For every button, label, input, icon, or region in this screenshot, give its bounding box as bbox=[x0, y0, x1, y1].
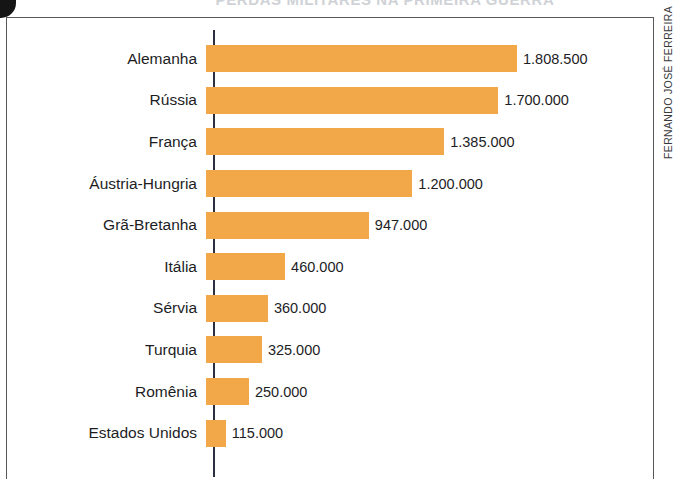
bar-category-label: Alemanha bbox=[6, 50, 206, 68]
bar-category-label: Itália bbox=[6, 258, 206, 276]
bar-value-label: 360.000 bbox=[268, 300, 326, 316]
credit-line: FERNANDO JOSÉ FERREIRA bbox=[657, 6, 679, 256]
bar-track: 460.000 bbox=[206, 246, 654, 288]
bar-value-label: 460.000 bbox=[285, 259, 343, 275]
bar-value-label: 115.000 bbox=[226, 425, 283, 441]
bar bbox=[206, 295, 268, 322]
bar bbox=[206, 336, 262, 363]
bar-category-label: Turquia bbox=[6, 341, 206, 359]
bar-row: Estados Unidos115.000 bbox=[6, 412, 654, 454]
chart-page: PERDAS MILITARES NA PRIMEIRA GUERRA FERN… bbox=[0, 0, 686, 480]
bar-track: 1.200.000 bbox=[206, 163, 654, 205]
bar-track: 1.808.500 bbox=[206, 38, 654, 80]
bar bbox=[206, 45, 517, 72]
bar-row: Itália460.000 bbox=[6, 246, 654, 288]
bar-category-label: França bbox=[6, 133, 206, 151]
bar bbox=[206, 253, 285, 280]
bar-row: Sérvia360.000 bbox=[6, 288, 654, 330]
bar-track: 250.000 bbox=[206, 371, 654, 413]
bar-value-label: 1.200.000 bbox=[412, 176, 483, 192]
bar-category-label: Rússia bbox=[6, 91, 206, 109]
bar-rows: Alemanha1.808.500Rússia1.700.000França1.… bbox=[6, 38, 654, 454]
bar-value-label: 325.000 bbox=[262, 342, 320, 358]
bar bbox=[206, 420, 226, 447]
horizontal-bar-chart: Alemanha1.808.500Rússia1.700.000França1.… bbox=[6, 18, 654, 473]
bar bbox=[206, 212, 369, 239]
bar-value-label: 1.808.500 bbox=[517, 51, 588, 67]
bar bbox=[206, 87, 498, 114]
bar-row: Rússia1.700.000 bbox=[6, 80, 654, 122]
bar-category-label: Áustria-Hungria bbox=[6, 175, 206, 193]
bar-track: 947.000 bbox=[206, 204, 654, 246]
bar-row: Alemanha1.808.500 bbox=[6, 38, 654, 80]
credit-text: FERNANDO JOSÉ FERREIRA bbox=[662, 6, 674, 159]
bar-row: Áustria-Hungria1.200.000 bbox=[6, 163, 654, 205]
bar-track: 115.000 bbox=[206, 412, 654, 454]
bar bbox=[206, 128, 444, 155]
corner-decoration-icon bbox=[0, 0, 16, 18]
bar-track: 1.385.000 bbox=[206, 121, 654, 163]
bar-category-label: Romênia bbox=[6, 383, 206, 401]
bar-track: 1.700.000 bbox=[206, 80, 654, 122]
bar-row: Romênia250.000 bbox=[6, 371, 654, 413]
bar-row: Turquia325.000 bbox=[6, 329, 654, 371]
bar bbox=[206, 378, 249, 405]
bar-track: 325.000 bbox=[206, 329, 654, 371]
bar-category-label: Grã-Bretanha bbox=[6, 216, 206, 234]
bar bbox=[206, 170, 412, 197]
bar-value-label: 1.700.000 bbox=[498, 92, 569, 108]
bar-category-label: Estados Unidos bbox=[6, 424, 206, 442]
bar-value-label: 250.000 bbox=[249, 384, 307, 400]
bar-value-label: 947.000 bbox=[369, 217, 427, 233]
bar-row: Grã-Bretanha947.000 bbox=[6, 204, 654, 246]
clipped-title: PERDAS MILITARES NA PRIMEIRA GUERRA bbox=[150, 0, 620, 5]
bar-category-label: Sérvia bbox=[6, 299, 206, 317]
bar-value-label: 1.385.000 bbox=[444, 134, 515, 150]
bar-row: França1.385.000 bbox=[6, 121, 654, 163]
bar-track: 360.000 bbox=[206, 288, 654, 330]
